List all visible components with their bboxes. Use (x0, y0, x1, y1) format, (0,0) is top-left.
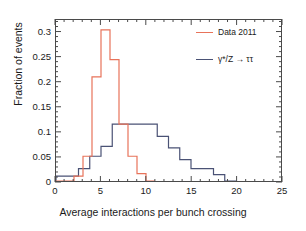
legend-label-mc: γ*/Z → ττ (218, 53, 253, 66)
y-tick-label: 0.25 (0, 52, 51, 62)
x-tick-label: 15 (176, 186, 206, 196)
legend-entry-data: Data 2011 (196, 26, 282, 39)
chart-figure: 00.050.10.150.20.250.3 0510152025 Averag… (0, 0, 306, 231)
legend-line-icon-mc (196, 59, 213, 60)
y-tick-label: 0.1 (0, 127, 51, 137)
y-tick-label: 0.3 (0, 27, 51, 37)
legend: Data 2011 γ*/Z → ττ (196, 26, 282, 66)
y-axis-title: Fraction of events (12, 0, 24, 134)
legend-entry-mc: γ*/Z → ττ (196, 53, 282, 66)
x-axis-title: Average interactions per bunch crossing (0, 206, 306, 218)
y-tick-label: 0.05 (0, 152, 51, 162)
legend-label-data: Data 2011 (218, 26, 257, 39)
series-data-2011 (56, 30, 155, 181)
x-tick-label: 20 (222, 186, 252, 196)
y-tick-label: 0.2 (0, 77, 51, 87)
x-tick-label: 25 (267, 186, 297, 196)
legend-line-icon-data (196, 32, 213, 33)
x-tick-label: 10 (131, 186, 161, 196)
x-tick-label: 0 (40, 186, 70, 196)
y-tick-label: 0.15 (0, 102, 51, 112)
x-tick-label: 5 (85, 186, 115, 196)
